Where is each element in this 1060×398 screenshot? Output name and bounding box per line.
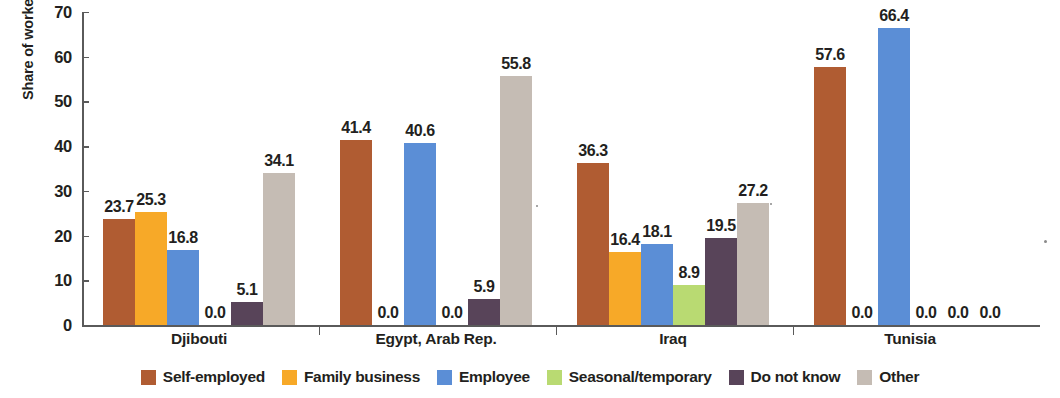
bar-value-label: 18.1	[642, 223, 672, 241]
bar-slot: 66.4	[878, 12, 910, 325]
plot-area: 01020304050607023.725.316.80.05.134.141.…	[82, 12, 1040, 325]
bar[interactable]: 16.8	[167, 250, 199, 325]
bar-slot: 0.0	[942, 12, 974, 325]
legend-item[interactable]: Seasonal/temporary	[547, 368, 712, 386]
y-axis-tick-mark	[83, 57, 89, 58]
bar-value-label: 40.6	[405, 122, 435, 140]
bar-slot: 0.0	[436, 12, 468, 325]
y-axis-tick-mark	[83, 101, 89, 102]
bar[interactable]: 41.4	[340, 140, 372, 325]
bar-value-label: 41.4	[341, 119, 371, 137]
y-axis-title: Share of workers (%)	[20, 0, 36, 100]
bar-slot: 34.1	[263, 12, 295, 325]
bar-slot: 16.4	[609, 12, 641, 325]
bar-slot: 5.1	[231, 12, 263, 325]
bar-value-label: 0.0	[377, 304, 398, 322]
legend-label: Self-employed	[163, 368, 265, 386]
bar-slot: 23.7	[103, 12, 135, 325]
bar[interactable]: 19.5	[705, 238, 737, 325]
legend-item[interactable]: Family business	[282, 368, 420, 386]
x-axis-group-label: Egypt, Arab Rep.	[375, 330, 496, 348]
bar-value-label: 57.6	[815, 46, 845, 64]
y-axis-tick-label: 10	[54, 271, 72, 290]
bar-value-label: 23.7	[104, 198, 134, 216]
bar[interactable]: 5.9	[468, 299, 500, 325]
legend-label: Other	[879, 368, 919, 386]
bar[interactable]: 8.9	[673, 285, 705, 325]
bar[interactable]: 34.1	[263, 173, 295, 325]
legend-label: Seasonal/temporary	[569, 368, 712, 386]
bar-slot: 0.0	[910, 12, 942, 325]
bar-slot: 40.6	[404, 12, 436, 325]
chart-legend: Self-employedFamily businessEmployeeSeas…	[0, 368, 1060, 386]
x-axis-group-separator	[319, 326, 320, 335]
bar-chart: Share of workers (%) 01020304050607023.7…	[0, 0, 1060, 398]
bar-value-label: 16.8	[168, 229, 198, 247]
x-axis-group-label: Tunisia	[884, 330, 936, 348]
y-axis-tick-label: 40	[54, 137, 72, 156]
bar-value-label: 55.8	[501, 55, 531, 73]
bar-value-label: 34.1	[264, 152, 294, 170]
bar-value-label: 19.5	[706, 217, 736, 235]
x-axis-line	[82, 325, 1040, 327]
bar[interactable]: 40.6	[404, 143, 436, 325]
bar-slot: 27.2	[737, 12, 769, 325]
legend-item[interactable]: Other	[857, 368, 919, 386]
y-axis-tick-mark	[83, 325, 89, 326]
bar-value-label: 5.1	[236, 281, 257, 299]
bar-value-label: 8.9	[678, 264, 699, 282]
legend-label: Family business	[304, 368, 420, 386]
legend-label: Employee	[459, 368, 530, 386]
bar[interactable]: 16.4	[609, 252, 641, 325]
bar-slot: 18.1	[641, 12, 673, 325]
bar-value-label: 0.0	[851, 304, 872, 322]
bar-value-label: 0.0	[979, 304, 1000, 322]
legend-item[interactable]: Employee	[437, 368, 530, 386]
legend-label: Do not know	[751, 368, 841, 386]
legend-swatch-icon	[282, 370, 297, 385]
legend-swatch-icon	[857, 370, 872, 385]
bar[interactable]: 55.8	[500, 76, 532, 326]
y-axis-tick-mark	[83, 236, 89, 237]
bar[interactable]: 27.2	[737, 203, 769, 325]
bar[interactable]: 57.6	[814, 67, 846, 325]
scan-speck	[536, 205, 538, 207]
bar-value-label: 25.3	[136, 191, 166, 209]
bar-slot: 57.6	[814, 12, 846, 325]
bar-value-label: 36.3	[578, 142, 608, 160]
bar-slot: 5.9	[468, 12, 500, 325]
bar[interactable]: 36.3	[577, 163, 609, 325]
legend-swatch-icon	[729, 370, 744, 385]
legend-swatch-icon	[437, 370, 452, 385]
bar-value-label: 16.4	[610, 231, 640, 249]
bar-slot: 19.5	[705, 12, 737, 325]
bar[interactable]: 5.1	[231, 302, 263, 325]
bar[interactable]: 18.1	[641, 244, 673, 325]
bar-value-label: 0.0	[947, 304, 968, 322]
bar-value-label: 0.0	[204, 304, 225, 322]
y-axis-tick-mark	[83, 280, 89, 281]
y-axis-tick-mark	[83, 12, 89, 13]
bar-slot: 25.3	[135, 12, 167, 325]
bar[interactable]: 66.4	[878, 28, 910, 325]
legend-swatch-icon	[141, 370, 156, 385]
bar-slot: 8.9	[673, 12, 705, 325]
y-axis-tick-label: 20	[54, 226, 72, 245]
y-axis-tick-label: 0	[63, 316, 72, 335]
x-axis-group-separator	[556, 326, 557, 335]
bar-value-label: 0.0	[441, 304, 462, 322]
bar[interactable]: 25.3	[135, 212, 167, 325]
scan-speck	[1044, 240, 1047, 243]
x-axis-group-label: Iraq	[659, 330, 687, 348]
y-axis-tick-mark	[83, 146, 89, 147]
x-axis-group-separator	[793, 326, 794, 335]
bar-slot: 0.0	[372, 12, 404, 325]
y-axis-line	[82, 12, 84, 325]
scan-speck	[770, 203, 772, 205]
bar-value-label: 66.4	[879, 7, 909, 25]
bar[interactable]: 23.7	[103, 219, 135, 325]
legend-item[interactable]: Self-employed	[141, 368, 265, 386]
bar-slot: 41.4	[340, 12, 372, 325]
legend-swatch-icon	[547, 370, 562, 385]
legend-item[interactable]: Do not know	[729, 368, 841, 386]
